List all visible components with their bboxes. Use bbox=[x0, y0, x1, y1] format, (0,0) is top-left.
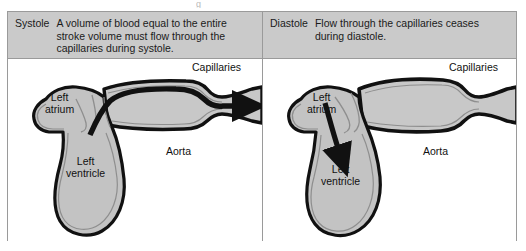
label-aorta-diastole: Aorta bbox=[423, 145, 448, 157]
label-left-ventricle-line1-systole: Left bbox=[77, 155, 95, 167]
label-left-ventricle-line2-diastole: ventricle bbox=[321, 175, 360, 187]
cardiac-cycle-figure: Systole A volume of blood equal to the e… bbox=[7, 11, 517, 241]
label-capillaries-systole: Capillaries bbox=[192, 61, 241, 73]
panel-diastole: Diastole Flow through the capillaries ce… bbox=[262, 12, 516, 240]
label-left-atrium-line1-systole: Left bbox=[51, 91, 69, 103]
label-aorta-systole: Aorta bbox=[166, 145, 191, 157]
label-left-atrium-line1-diastole: Left bbox=[313, 91, 331, 103]
diagram-diastole: Capillaries Left atrium Left ventricle A… bbox=[263, 59, 516, 241]
caption-text-diastole: Flow through the capillaries ceases duri… bbox=[315, 17, 510, 58]
systole-anatomy-svg bbox=[8, 59, 262, 241]
caption-diastole: Diastole Flow through the capillaries ce… bbox=[263, 12, 516, 59]
label-left-ventricle-line1-diastole: Left bbox=[332, 163, 350, 175]
panel-systole: Systole A volume of blood equal to the e… bbox=[8, 12, 262, 240]
label-capillaries-diastole: Capillaries bbox=[449, 61, 498, 73]
phase-label-systole: Systole bbox=[15, 17, 49, 58]
caption-systole: Systole A volume of blood equal to the e… bbox=[8, 12, 262, 59]
label-left-ventricle-systole: Left ventricle bbox=[66, 155, 105, 179]
label-left-atrium-systole: Left atrium bbox=[45, 91, 74, 115]
caption-text-systole: A volume of blood equal to the entire st… bbox=[56, 17, 256, 58]
label-left-ventricle-line2-systole: ventricle bbox=[66, 167, 105, 179]
label-left-ventricle-diastole: Left ventricle bbox=[321, 163, 360, 187]
diastole-anatomy-svg bbox=[263, 59, 516, 241]
label-left-atrium-diastole: Left atrium bbox=[307, 91, 336, 115]
diagram-systole: Capillaries Left atrium Left ventricle A… bbox=[8, 59, 262, 241]
label-left-atrium-line2-systole: atrium bbox=[45, 103, 74, 115]
phase-label-diastole: Diastole bbox=[270, 17, 308, 58]
clipped-top-text: g bbox=[196, 0, 202, 8]
label-left-atrium-line2-diastole: atrium bbox=[307, 103, 336, 115]
